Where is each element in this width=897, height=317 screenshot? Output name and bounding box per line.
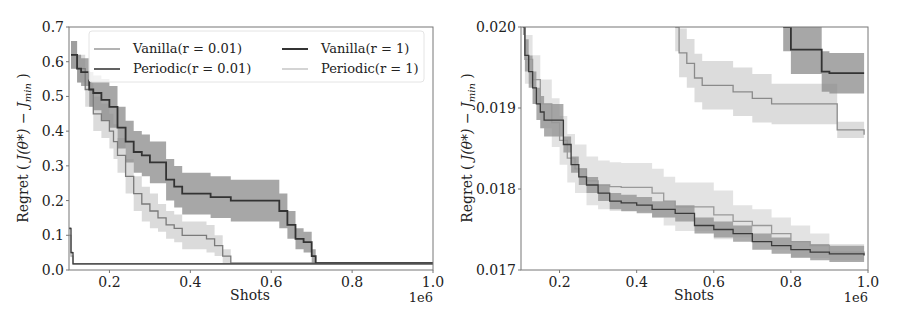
right-plot-y-ticks: 0.0170.0180.0190.020 xyxy=(476,19,521,278)
y-tick-label: 0.3 xyxy=(42,158,64,174)
series-line xyxy=(69,235,433,263)
y-tick-label: 0.4 xyxy=(42,123,64,139)
y-tick-label: 0.020 xyxy=(476,19,516,35)
x-tick-label: 0.4 xyxy=(626,274,648,290)
right-plot-bands xyxy=(523,3,864,264)
figure-canvas: 0.00.10.20.30.40.50.60.7 0.20.40.60.81.0… xyxy=(0,0,897,317)
x-tick-label: 0.8 xyxy=(341,274,363,290)
legend-label: Periodic(r = 1) xyxy=(321,61,419,76)
legend-label: Vanilla(r = 0.01) xyxy=(132,41,242,56)
series-line xyxy=(69,228,433,263)
y-tick-label: 0.7 xyxy=(42,19,64,35)
left-plot-y-label: Regret (J(θ*) − Jmin ) xyxy=(15,73,33,223)
y-tick-label: 0.0 xyxy=(42,262,64,278)
y-tick-label: 0.017 xyxy=(476,262,516,278)
y-tick-label: 0.1 xyxy=(42,227,64,243)
y-tick-label: 0.018 xyxy=(476,181,516,197)
left-plot: 0.00.10.20.30.40.50.60.7 0.20.40.60.81.0… xyxy=(15,19,444,305)
legend: Vanilla(r = 0.01) Vanilla(r = 1) Periodi… xyxy=(89,31,424,82)
confidence-band xyxy=(69,234,433,264)
right-plot-y-label: Regret (J(θ*) − Jmin ) xyxy=(459,73,477,223)
x-tick-label: 0.4 xyxy=(179,274,201,290)
confidence-band xyxy=(783,3,864,94)
right-plot: 0.0170.0180.0190.020 0.20.40.60.81.0 Sho… xyxy=(459,3,879,305)
legend-label: Periodic(r = 0.01) xyxy=(133,61,251,76)
x-tick-label: 0.2 xyxy=(548,274,570,290)
left-plot-y-ticks: 0.00.10.20.30.40.50.60.7 xyxy=(42,19,69,278)
left-plot-x-ticks: 0.20.40.60.81.0 xyxy=(98,270,444,290)
right-plot-x-label: Shots xyxy=(674,287,714,303)
left-plot-x-label: Shots xyxy=(230,287,270,303)
legend-label: Vanilla(r = 1) xyxy=(320,41,409,56)
confidence-band xyxy=(69,227,433,264)
series-line xyxy=(71,55,433,263)
x-tick-label: 0.2 xyxy=(98,274,120,290)
x-tick-label: 1.0 xyxy=(422,274,444,290)
y-tick-label: 0.2 xyxy=(42,193,64,209)
x-tick-label: 0.8 xyxy=(780,274,802,290)
x-tick-label: 1.0 xyxy=(857,274,879,290)
figure: 0.00.10.20.30.40.50.60.7 0.20.40.60.81.0… xyxy=(0,0,897,317)
left-plot-x-offset: 1e6 xyxy=(409,290,433,305)
y-tick-label: 0.6 xyxy=(42,54,64,70)
y-tick-label: 0.019 xyxy=(476,100,516,116)
y-tick-label: 0.5 xyxy=(42,88,64,104)
right-plot-x-offset: 1e6 xyxy=(844,290,868,305)
